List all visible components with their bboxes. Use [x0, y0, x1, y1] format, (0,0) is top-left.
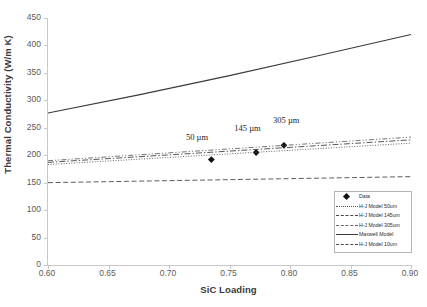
series-line [48, 140, 411, 163]
y-tick-label: 50 [11, 232, 41, 242]
x-tick-label: 0.70 [148, 268, 188, 278]
y-tick-label: 150 [11, 177, 41, 187]
legend-key-line-icon [335, 202, 359, 212]
x-tick-label: 0.75 [209, 268, 249, 278]
y-tick-label: 350 [11, 67, 41, 77]
legend-key-line-icon [335, 211, 359, 221]
y-tick-mark [44, 183, 48, 184]
legend-line-swatch [336, 244, 358, 245]
legend-item: H-J Model 305um [335, 221, 411, 231]
legend-item: Maxwell Model [335, 230, 411, 240]
legend-item: Data [335, 192, 411, 202]
x-tick-label: 0.85 [330, 268, 370, 278]
y-tick-mark [44, 155, 48, 156]
thermal-conductivity-chart: Thermal Conductivity (W/m K) 05010015020… [0, 0, 427, 307]
point-annotation: 305 µm [273, 115, 299, 125]
legend-key-line-icon [335, 240, 359, 250]
legend-item-label: H-J Model 50um [359, 202, 397, 212]
chart-legend: DataH-J Model 50umH-J Model 145umH-J Mod… [334, 191, 412, 253]
series-5 [48, 177, 411, 183]
legend-item: H-J Model 145um [335, 211, 411, 221]
x-tick-label: 0.80 [269, 268, 309, 278]
y-tick-label: 300 [11, 94, 41, 104]
legend-diamond-icon [343, 193, 350, 200]
series-2 [48, 140, 411, 163]
y-tick-label: 100 [11, 204, 41, 214]
series-4 [48, 34, 411, 112]
y-tick-mark [44, 73, 48, 74]
legend-line-swatch [336, 215, 358, 216]
legend-item: H-J Model 10um [335, 240, 411, 250]
y-tick-mark [44, 128, 48, 129]
x-tick-label: 0.90 [390, 268, 427, 278]
y-tick-mark [44, 238, 48, 239]
y-tick-label: 200 [11, 149, 41, 159]
x-axis-ticks: 0.600.650.700.750.800.850.90 [0, 268, 427, 282]
legend-item-label: H-J Model 145um [359, 211, 400, 221]
y-tick-mark [44, 100, 48, 101]
y-tick-mark [44, 45, 48, 46]
y-axis-ticks: 050100150200250300350400450 [9, 0, 41, 265]
series-line [48, 143, 411, 164]
y-tick-mark [44, 18, 48, 19]
series-line [48, 34, 411, 112]
legend-line-swatch [336, 234, 358, 235]
x-axis-title: SiC Loading [47, 284, 410, 295]
series-1 [48, 143, 411, 164]
legend-line-swatch [336, 225, 358, 226]
legend-key-marker-icon [335, 192, 359, 202]
y-tick-mark [44, 210, 48, 211]
x-tick-label: 0.65 [88, 268, 128, 278]
point-annotation: 145 µm [234, 123, 260, 133]
series-3 [48, 137, 411, 161]
legend-key-line-icon [335, 221, 359, 231]
legend-item-label: Maxwell Model [359, 230, 393, 240]
x-tick-label: 0.60 [27, 268, 67, 278]
legend-key-line-icon [335, 230, 359, 240]
legend-item-label: H-J Model 10um [359, 240, 397, 250]
data-point-marker [208, 156, 215, 163]
y-tick-label: 400 [11, 39, 41, 49]
y-tick-label: 250 [11, 122, 41, 132]
legend-line-swatch [336, 206, 358, 207]
series-line [48, 177, 411, 183]
legend-item: H-J Model 50um [335, 202, 411, 212]
point-annotation: 50 µm [186, 132, 208, 142]
legend-item-label: Data [359, 192, 370, 202]
series-0 [208, 142, 287, 163]
legend-item-label: H-J Model 305um [359, 221, 400, 231]
y-tick-label: 450 [11, 12, 41, 22]
series-line [48, 137, 411, 161]
